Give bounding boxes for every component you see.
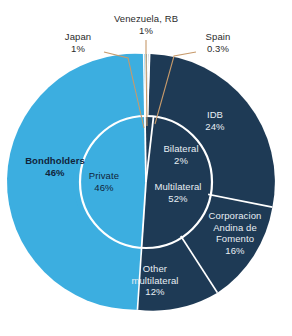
other-multilateral-name-line1: Other [120,263,190,275]
callout-japan-value: 1% [55,43,101,55]
idb-value: 24% [195,121,235,133]
nested-donut-chart: Japan 1% Venezuela, RB 1% Spain 0.3% Bon… [0,0,292,336]
slice-label-idb: IDB 24% [195,109,235,132]
caf-name-line2: Andina de [200,222,270,234]
bondholders-name: Bondholders [16,155,94,167]
slice-label-private: Private 46% [78,170,130,193]
multilateral-value: 52% [147,193,209,205]
callout-label-japan: Japan 1% [55,31,101,54]
bilateral-name: Bilateral [155,143,207,155]
slice-label-multilateral: Multilateral 52% [147,181,209,204]
callout-venezuela-value: 1% [106,25,186,37]
callout-label-venezuela: Venezuela, RB 1% [106,13,186,36]
multilateral-name: Multilateral [147,181,209,193]
private-value: 46% [78,182,130,194]
slice-label-other-multilateral: Other multilateral 12% [120,263,190,298]
private-name: Private [78,170,130,182]
caf-name-line3: Fomento [200,233,270,245]
other-multilateral-name-line2: multilateral [120,275,190,287]
callout-spain-name: Spain [196,31,240,43]
slice-label-bilateral: Bilateral 2% [155,143,207,166]
callout-japan-name: Japan [55,31,101,43]
inner-separator-private-bilateral [145,116,146,182]
callout-spain-value: 0.3% [196,43,240,55]
caf-value: 16% [200,245,270,257]
other-multilateral-value: 12% [120,286,190,298]
idb-name: IDB [195,109,235,121]
bilateral-value: 2% [155,155,207,167]
slice-label-caf: Corporacion Andina de Fomento 16% [200,210,270,256]
caf-name-line1: Corporacion [200,210,270,222]
callout-label-spain: Spain 0.3% [196,31,240,54]
callout-venezuela-name: Venezuela, RB [106,13,186,25]
